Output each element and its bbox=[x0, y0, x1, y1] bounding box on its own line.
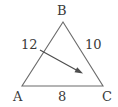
side-length-ac: 8 bbox=[58, 90, 66, 103]
triangle-diagram: B A C 12 10 8 bbox=[0, 0, 118, 107]
triangle-outline bbox=[22, 22, 103, 86]
side-length-ab: 12 bbox=[21, 38, 38, 51]
side-length-bc: 10 bbox=[85, 38, 102, 51]
vertex-label-b: B bbox=[57, 4, 67, 17]
vertex-label-a: A bbox=[13, 90, 22, 103]
interior-arrow-head bbox=[75, 67, 84, 73]
vertex-label-c: C bbox=[102, 90, 112, 103]
interior-arrow-shaft bbox=[40, 50, 79, 72]
